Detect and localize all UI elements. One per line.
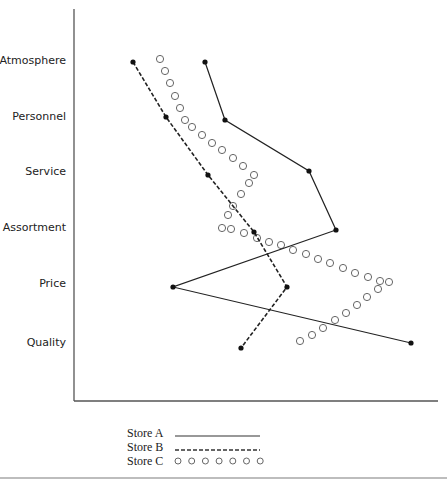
data-point xyxy=(222,117,227,122)
data-point-circle xyxy=(227,225,234,232)
series-store-a xyxy=(170,59,413,345)
legend-circle xyxy=(175,458,181,464)
legend-circle xyxy=(202,458,208,464)
data-point-circle xyxy=(265,238,272,245)
data-point-circle xyxy=(308,331,315,338)
legend-swatch-circles xyxy=(175,458,263,464)
category-label-price: Price xyxy=(39,277,66,290)
data-point xyxy=(202,59,207,64)
data-point xyxy=(163,114,168,119)
data-point-circle xyxy=(198,131,205,138)
data-point xyxy=(238,345,243,350)
data-point-circle xyxy=(181,116,188,123)
legend-circle xyxy=(230,458,236,464)
data-point-circle xyxy=(314,255,321,262)
data-point xyxy=(205,172,210,177)
legend-label-store-b: Store B xyxy=(127,440,163,454)
data-point-circle xyxy=(364,273,371,280)
data-point-circle xyxy=(188,123,195,130)
data-point-circle xyxy=(176,104,183,111)
legend-circle xyxy=(257,458,263,464)
data-point-circle xyxy=(319,324,326,331)
data-point-circle xyxy=(376,277,383,284)
data-point-circle xyxy=(277,241,284,248)
data-point-circle xyxy=(218,146,225,153)
series-line xyxy=(173,62,411,343)
category-label-atmosphere: Atmosphere xyxy=(0,54,66,67)
series-store-b xyxy=(130,59,289,350)
category-label-personnel: Personnel xyxy=(12,110,66,123)
category-labels: Atmosphere Personnel Service Assortment … xyxy=(0,54,67,349)
data-point-circle xyxy=(166,79,173,86)
legend-label-store-a: Store A xyxy=(127,426,164,440)
data-point-circle xyxy=(302,250,309,257)
legend-circle xyxy=(216,458,222,464)
data-point-circle xyxy=(296,337,303,344)
data-point-circle xyxy=(245,179,252,186)
data-point-circle xyxy=(171,92,178,99)
data-point-circle xyxy=(339,264,346,271)
axes xyxy=(74,9,438,401)
legend-circle xyxy=(244,458,250,464)
category-label-assortment: Assortment xyxy=(3,221,67,234)
data-point-circle xyxy=(237,190,244,197)
category-label-quality: Quality xyxy=(27,336,67,349)
series-store-c xyxy=(156,55,392,344)
data-point-circle xyxy=(353,301,360,308)
data-point-circle xyxy=(331,316,338,323)
data-point-circle xyxy=(351,269,358,276)
data-point xyxy=(170,284,175,289)
data-point-circle xyxy=(156,55,163,62)
series-line xyxy=(133,62,287,348)
data-point xyxy=(284,284,289,289)
data-point xyxy=(333,227,338,232)
data-point-circle xyxy=(224,211,231,218)
legend-circle xyxy=(189,458,195,464)
data-point-circle xyxy=(289,246,296,253)
data-point-circle xyxy=(326,259,333,266)
data-point xyxy=(251,229,256,234)
data-point-circle xyxy=(374,285,381,292)
store-image-profile-chart: Atmosphere Personnel Service Assortment … xyxy=(0,0,447,480)
data-point-circle xyxy=(161,67,168,74)
legend: Store A Store B Store C xyxy=(127,426,263,468)
data-point xyxy=(130,59,135,64)
bottom-divider xyxy=(0,477,447,479)
data-point xyxy=(306,168,311,173)
data-point-circle xyxy=(250,171,257,178)
data-point xyxy=(408,340,413,345)
data-point-circle xyxy=(342,309,349,316)
data-point-circle xyxy=(239,162,246,169)
data-point-circle xyxy=(240,229,247,236)
category-label-service: Service xyxy=(25,165,66,178)
data-point-circle xyxy=(218,224,225,231)
data-point-circle xyxy=(363,293,370,300)
data-point-circle xyxy=(385,278,392,285)
data-point-circle xyxy=(229,154,236,161)
data-point-circle xyxy=(208,139,215,146)
legend-label-store-c: Store C xyxy=(127,454,163,468)
